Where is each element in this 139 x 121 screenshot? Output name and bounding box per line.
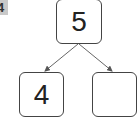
part-box-left: 4 — [19, 72, 64, 117]
whole-value: 5 — [71, 6, 87, 38]
part-left-value: 4 — [34, 79, 50, 111]
whole-box: 5 — [56, 0, 102, 44]
arrow-to-left-part — [45, 44, 78, 71]
arrow-to-right-part — [79, 44, 112, 71]
part-box-right-empty[interactable] — [92, 72, 137, 117]
